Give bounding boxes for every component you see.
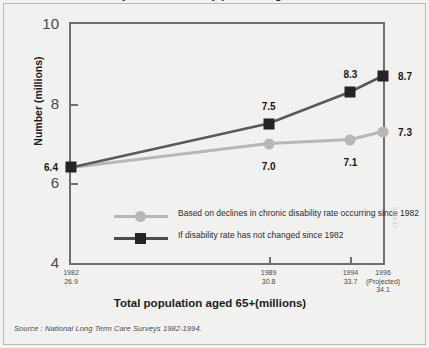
data-point-label: 7.1	[344, 156, 358, 167]
data-point-label: 7.3	[398, 126, 412, 137]
data-point-square[interactable]	[378, 70, 389, 81]
x-tick-mark	[350, 257, 352, 263]
x-tick-label: 198226.9	[36, 269, 106, 286]
y-tick-mark	[71, 104, 78, 106]
source-note: Source : National Long Term Care Surveys…	[14, 324, 202, 333]
data-point-label: 6.4	[44, 162, 58, 173]
data-point-square[interactable]	[345, 86, 356, 97]
legend-item-light[interactable]: Based on declines in chronic disability …	[114, 206, 364, 228]
plot-inner: 6.47.07.17.37.58.38.7 Based on declines …	[71, 24, 383, 263]
data-point-circle[interactable]	[345, 134, 356, 145]
x-tick-line: 26.9	[36, 278, 106, 287]
data-point-square[interactable]	[263, 118, 274, 129]
x-tick-label: 1996(Projected)34.1	[348, 269, 418, 295]
legend-label-dark: If disability rate has not changed since…	[178, 230, 343, 240]
data-point-label: 8.3	[344, 68, 358, 79]
legend-label-light: Based on declines in chronic disability …	[178, 208, 419, 218]
legend-swatch-square	[114, 233, 168, 244]
plot-area: 6.47.07.17.37.58.38.7 Based on declines …	[69, 22, 385, 265]
series-line-light	[71, 132, 383, 168]
legend-item-dark[interactable]: If disability rate has not changed since…	[114, 228, 364, 250]
data-point-label: 7.5	[262, 100, 276, 111]
chart-legend: Based on declines in chronic disability …	[114, 206, 364, 250]
figure-watermark: JT 9810	[392, 207, 398, 228]
legend-circle-icon	[135, 211, 146, 222]
x-tick-label: 198930.8	[234, 269, 304, 286]
x-tick-line: 34.1	[348, 286, 418, 295]
x-tick-line: 1982	[36, 269, 106, 278]
legend-square-icon	[135, 233, 146, 244]
data-point-circle[interactable]	[263, 138, 274, 149]
data-point-circle[interactable]	[378, 126, 389, 137]
series-line-dark	[71, 76, 383, 168]
legend-swatch-circle	[114, 211, 168, 222]
x-tick-line: (Projected)	[348, 278, 418, 287]
x-tick-line: 1989	[234, 269, 304, 278]
x-tick-mark	[269, 257, 271, 263]
y-tick-mark	[71, 183, 78, 185]
figure-container: Number of chronically disabled elderly p…	[0, 0, 429, 348]
data-point-label: 7.0	[262, 160, 276, 171]
data-point-square[interactable]	[66, 162, 77, 173]
x-tick-line: 30.8	[234, 278, 304, 287]
x-tick-line: 1996	[348, 269, 418, 278]
data-point-label: 8.7	[398, 70, 412, 81]
